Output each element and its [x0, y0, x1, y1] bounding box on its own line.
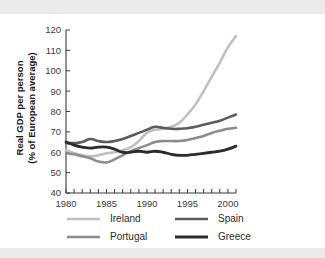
- y-tick-label: 60: [50, 147, 61, 158]
- y-tick-label: 90: [50, 86, 61, 97]
- y-axis-title-line2: (% of European average): [26, 52, 37, 163]
- y-tick-label: 110: [46, 45, 61, 56]
- chart-figure: Real GDP per person (% of European avera…: [0, 0, 325, 258]
- gdp-per-person-line-chart: Real GDP per person (% of European avera…: [0, 0, 325, 258]
- x-axis-tick-group: 19801985199019952000: [55, 189, 238, 209]
- legend-label-greece: Greece: [218, 231, 251, 242]
- x-tick-label: 2000: [217, 198, 238, 209]
- x-tick-label: 1990: [136, 198, 157, 209]
- y-axis-title-group: Real GDP per person (% of European avera…: [14, 52, 37, 163]
- chart-legend: IrelandSpainPortugalGreece: [67, 213, 251, 242]
- legend-label-portugal: Portugal: [110, 231, 147, 242]
- y-axis-title-line1: Real GDP per person: [14, 60, 25, 155]
- y-tick-label: 70: [50, 126, 61, 137]
- legend-label-spain: Spain: [218, 213, 244, 224]
- legend-label-ireland: Ireland: [110, 213, 141, 224]
- y-tick-label: 80: [50, 106, 61, 117]
- y-tick-label: 40: [50, 187, 61, 198]
- y-tick-label: 100: [45, 65, 61, 76]
- y-tick-label: 120: [45, 24, 61, 35]
- y-tick-label: 50: [50, 167, 61, 178]
- series-line-spain: [66, 115, 236, 144]
- x-tick-label: 1985: [96, 198, 117, 209]
- x-tick-label: 1995: [177, 198, 198, 209]
- data-series-group: [66, 36, 236, 162]
- x-tick-label: 1980: [55, 198, 76, 209]
